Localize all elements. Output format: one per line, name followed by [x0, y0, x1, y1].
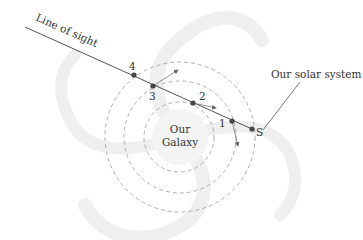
galaxy-label-line2: Galaxy — [162, 136, 198, 148]
galaxy-rotation-diagram: Line of sight Our solar system Our Galax… — [0, 0, 363, 240]
point-label-1: 1 — [219, 117, 226, 129]
point-sun — [249, 126, 254, 131]
point-3 — [150, 83, 155, 88]
point-label-3: 3 — [149, 90, 156, 102]
point-1 — [229, 118, 234, 123]
solar-system-label: Our solar system — [271, 68, 362, 80]
line-of-sight-label: Line of sight — [34, 11, 100, 49]
galaxy-label-line1: Our — [170, 123, 191, 135]
solar-system-leader — [263, 82, 300, 130]
point-4 — [131, 72, 136, 77]
point-label-2: 2 — [199, 90, 206, 102]
point-label-sun: S — [256, 126, 263, 138]
point-label-4: 4 — [129, 60, 136, 72]
point-2 — [190, 100, 195, 105]
